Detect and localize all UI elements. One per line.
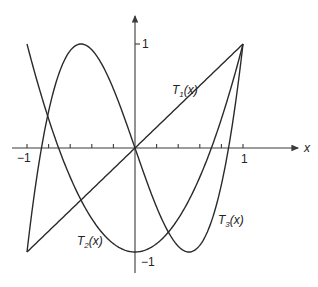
label-t2: T2(x) [77, 234, 103, 250]
y-tick-label-pos1: 1 [142, 37, 149, 51]
x-axis-label: x [303, 141, 311, 155]
x-tick-label-pos1: 1 [241, 152, 248, 166]
chebyshev-chart: x −1 1 1 −1 T1(x) T2(x) T3(x) [0, 0, 318, 287]
label-t1: T1(x) [172, 83, 198, 99]
label-t3: T3(x) [218, 213, 244, 229]
y-tick-label-neg1: −1 [141, 255, 155, 269]
x-tick-label-neg1: −1 [17, 151, 31, 165]
